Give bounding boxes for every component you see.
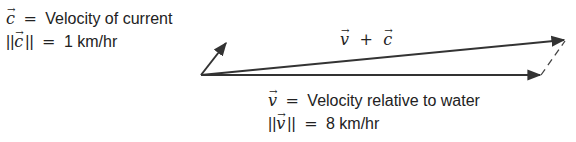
- v-vector-symbol: v: [276, 114, 285, 134]
- dashed-parallelogram-side: [541, 41, 565, 75]
- vector-c-arrow: [201, 43, 226, 75]
- water-definition-text: Velocity relative to water: [307, 92, 480, 109]
- current-definition-text: Velocity of current: [45, 10, 172, 27]
- current-definition: c = Velocity of current: [6, 9, 172, 29]
- current-magnitude: ||c|| = 1 km/hr: [6, 32, 117, 52]
- water-magnitude-value: 8 km/hr: [326, 115, 379, 132]
- v-vector-symbol: v: [268, 91, 277, 111]
- water-definition: v = Velocity relative to water: [268, 91, 480, 111]
- c-vector-symbol: c: [14, 32, 23, 52]
- c-vector-symbol: c: [6, 9, 15, 29]
- water-magnitude: ||v|| = 8 km/hr: [268, 114, 379, 134]
- sum-label: v + c: [340, 30, 392, 50]
- current-magnitude-value: 1 km/hr: [64, 33, 117, 50]
